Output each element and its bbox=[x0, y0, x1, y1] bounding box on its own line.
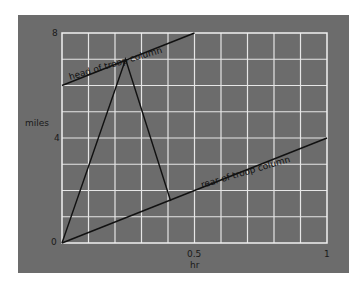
y-tick-4: 4 bbox=[54, 133, 60, 143]
chart-plot: head of troop column rear of troop colum… bbox=[0, 0, 359, 292]
x-axis-label: hr bbox=[190, 260, 199, 270]
y-tick-8: 8 bbox=[52, 28, 58, 38]
x-tick-0.5: 0.5 bbox=[187, 249, 201, 259]
y-axis-label: miles bbox=[25, 118, 49, 128]
messenger-path-line bbox=[62, 59, 171, 243]
x-tick-1: 1 bbox=[324, 249, 330, 259]
rear-of-column-label: rear of troop column bbox=[200, 154, 291, 190]
y-tick-0: 0 bbox=[51, 237, 57, 247]
